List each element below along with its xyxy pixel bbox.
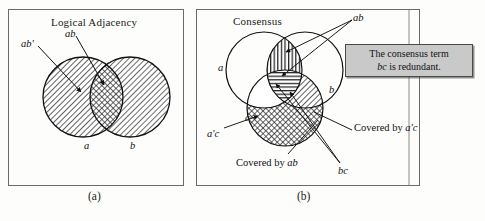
covered-by-apc-term: a'c xyxy=(405,122,417,133)
panel-b-frame xyxy=(196,9,420,186)
label-circle-b: b xyxy=(130,140,135,151)
panel-b-caption: (b) xyxy=(297,190,310,202)
callout-term: bc xyxy=(377,61,386,72)
label-covered-by-a-prime-c: Covered by a'c xyxy=(354,122,417,133)
consensus-callout-box: The consensus term bc is redundant. xyxy=(345,44,473,77)
callout-line-2-rest: is redundant. xyxy=(387,61,441,72)
panel-b-title: Consensus xyxy=(233,15,282,27)
label-ab-prime: ab' xyxy=(21,38,34,49)
panel-a-caption: (a) xyxy=(88,190,101,202)
label-b-circle-b: b xyxy=(329,84,334,95)
label-b-circle-a: a xyxy=(218,62,223,73)
label-ab: ab xyxy=(65,28,76,39)
panel-a-frame xyxy=(8,9,184,186)
label-circle-a: a xyxy=(84,140,89,151)
label-b-a-prime-c: a'c xyxy=(207,128,219,139)
covered-by-apc-text: Covered by xyxy=(354,122,405,133)
callout-line-2: bc is redundant. xyxy=(377,61,441,73)
covered-by-ab-text: Covered by xyxy=(236,157,287,168)
label-covered-by-ab: Covered by ab xyxy=(236,157,298,168)
label-b-ab: ab xyxy=(353,12,364,23)
callout-line-1: The consensus term xyxy=(369,48,448,60)
label-b-circle-c: c xyxy=(245,112,250,123)
panel-a-title: Logical Adjacency xyxy=(51,16,137,28)
figure-root: Logical Adjacency Consensus ab' ab a b a… xyxy=(0,0,485,221)
covered-by-ab-term: ab xyxy=(287,157,298,168)
label-b-bc: bc xyxy=(338,165,348,176)
